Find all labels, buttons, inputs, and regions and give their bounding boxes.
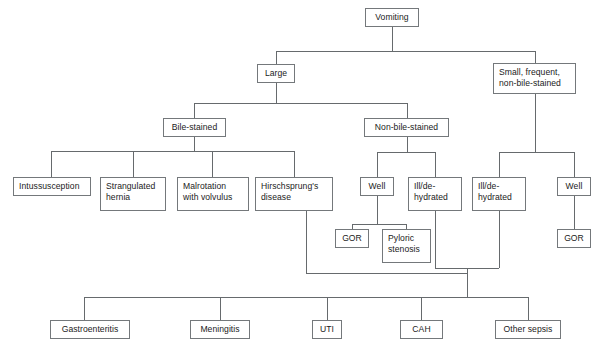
node-gastroenteritis: Gastroenteritis bbox=[50, 320, 130, 339]
node-meningitis: Meningitis bbox=[190, 320, 250, 339]
node-label: Vomiting bbox=[375, 12, 408, 22]
node-malrotation: Malrotation with volvulus bbox=[177, 177, 249, 211]
node-non_bile_stained: Non-bile-stained bbox=[364, 118, 449, 137]
node-label: Other sepsis bbox=[504, 324, 553, 334]
node-ill_dehydrated_1: Ill/de- hydrated bbox=[408, 177, 462, 211]
node-label: Strangulated hernia bbox=[106, 181, 155, 202]
node-strangulated: Strangulated hernia bbox=[100, 177, 166, 211]
node-label: Malrotation with volvulus bbox=[183, 181, 232, 202]
node-label: Non-bile-stained bbox=[375, 122, 438, 132]
node-bile_stained: Bile-stained bbox=[163, 118, 226, 137]
node-label: Bile-stained bbox=[172, 122, 218, 132]
node-hirschsprungs: Hirschsprung's disease bbox=[255, 177, 333, 211]
node-label: Meningitis bbox=[200, 324, 239, 334]
node-uti: UTI bbox=[312, 320, 342, 339]
node-label: Hirschsprung's disease bbox=[261, 181, 318, 202]
node-label: Large bbox=[265, 68, 287, 78]
node-gor_left: GOR bbox=[335, 229, 369, 248]
flowchart-canvas: VomitingLargeSmall, frequent, non-bile-s… bbox=[0, 0, 599, 353]
node-label: UTI bbox=[320, 324, 334, 334]
node-label: Intussusception bbox=[19, 181, 79, 191]
node-gor_right: GOR bbox=[557, 229, 591, 248]
node-label: Ill/de- hydrated bbox=[414, 181, 448, 202]
node-label: Well bbox=[369, 181, 386, 191]
node-label: CAH bbox=[412, 324, 430, 334]
node-cah: CAH bbox=[400, 320, 443, 339]
node-well_left: Well bbox=[360, 177, 394, 196]
node-intussusception: Intussusception bbox=[13, 177, 91, 196]
node-large: Large bbox=[257, 64, 295, 83]
node-vomiting: Vomiting bbox=[365, 8, 419, 27]
node-label: Gastroenteritis bbox=[62, 324, 119, 334]
node-pyloric_stenosis: Pyloric stenosis bbox=[382, 229, 431, 263]
node-label: Well bbox=[566, 181, 583, 191]
node-well_right: Well bbox=[557, 177, 591, 196]
node-label: Small, frequent, non-bile-stained bbox=[499, 67, 561, 88]
node-label: GOR bbox=[564, 233, 584, 243]
node-ill_dehydrated_2: Ill/de- hydrated bbox=[472, 177, 526, 211]
node-label: GOR bbox=[342, 233, 362, 243]
node-label: Pyloric stenosis bbox=[388, 233, 420, 254]
node-other_sepsis: Other sepsis bbox=[495, 320, 561, 339]
node-label: Ill/de- hydrated bbox=[478, 181, 512, 202]
node-small_frequent: Small, frequent, non-bile-stained bbox=[493, 63, 576, 94]
